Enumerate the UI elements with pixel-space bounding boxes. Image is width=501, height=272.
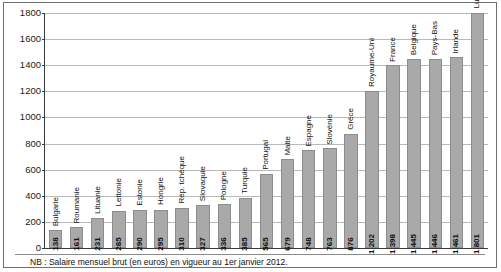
bar-value-label: 748: [301, 237, 309, 250]
bar[interactable]: 290: [133, 210, 147, 248]
bar[interactable]: 336: [218, 204, 232, 248]
bar-value-label: 1 446: [427, 234, 435, 254]
bar-value-label: 161: [69, 237, 77, 250]
bar[interactable]: 161: [70, 227, 84, 248]
bar-slot: 876Grèce: [344, 13, 358, 248]
bar-value-label: 336: [216, 237, 224, 250]
category-label: Slovaquie: [199, 166, 207, 201]
category-label: Pologne: [220, 171, 228, 200]
bar-slot: 138Bulgarie: [49, 13, 63, 248]
category-label: Irlande: [452, 29, 460, 53]
chart-note: NB : Salaire mensuel brut (en euros) en …: [30, 258, 288, 267]
y-axis-tick-label: 1000: [20, 113, 41, 123]
bar-slot: 161Roumanie: [70, 13, 84, 248]
bar[interactable]: 1 398: [386, 65, 400, 248]
category-label: Grèce: [347, 108, 355, 130]
y-axis-tick-label: 1600: [20, 34, 41, 44]
bar-value-label: 310: [174, 237, 182, 250]
note-divider: [15, 254, 485, 255]
bar[interactable]: 748: [302, 150, 316, 248]
bar-slot: 763Slovénie: [323, 13, 337, 248]
category-label: Malte: [284, 136, 292, 156]
bar-value-label: 290: [132, 237, 140, 250]
bar-value-label: 1 801: [469, 234, 477, 254]
bars-group: 138Bulgarie161Roumanie231Lituanie285Lett…: [45, 13, 488, 248]
bar[interactable]: 310: [175, 208, 189, 248]
bar-value-label: 763: [322, 237, 330, 250]
bar-value-label: 876: [343, 237, 351, 250]
bar-slot: 336Pologne: [218, 13, 232, 248]
plot-area: 020040060080010001200140016001800 138Bul…: [44, 13, 488, 248]
bar-value-label: 231: [90, 237, 98, 250]
bar-value-label: 679: [280, 237, 288, 250]
category-label: Espagne: [305, 115, 313, 147]
y-axis-tick-label: 400: [25, 191, 41, 201]
bar-slot: 285Lettonie: [112, 13, 126, 248]
bar[interactable]: 565: [260, 174, 274, 248]
bar[interactable]: 763: [323, 148, 337, 248]
category-label: Belgique: [410, 24, 418, 55]
category-label: Rép. tchèque: [178, 156, 186, 204]
bar-slot: 1 446Pays-Bas: [429, 13, 443, 248]
y-axis-tick-label: 1200: [20, 87, 41, 97]
bar[interactable]: 385: [239, 198, 253, 248]
chart-figure: 020040060080010001200140016001800 138Bul…: [0, 0, 501, 272]
bar[interactable]: 679: [281, 159, 295, 248]
bar[interactable]: 876: [344, 134, 358, 248]
bar-slot: 748Espagne: [302, 13, 316, 248]
category-label: Slovénie: [326, 114, 334, 145]
bar-slot: 1 801Luxembourg: [471, 13, 485, 248]
bar[interactable]: 1 445: [407, 59, 421, 248]
bar-value-label: 1 445: [406, 234, 414, 254]
bar-value-label: 385: [237, 237, 245, 250]
category-label: Royaume-Uni: [368, 38, 376, 87]
bar-slot: 679Malte: [281, 13, 295, 248]
category-label: Pays-Bas: [431, 21, 439, 55]
bar-slot: 327Slovaquie: [196, 13, 210, 248]
category-label: Estonie: [136, 179, 144, 206]
y-axis-tick-label: 600: [25, 165, 41, 175]
y-axis-tick-label: 1800: [20, 8, 41, 18]
bar[interactable]: 327: [196, 205, 210, 248]
bar-slot: 385Turquie: [239, 13, 253, 248]
bar-value-label: 138: [48, 237, 56, 250]
bar[interactable]: 1 801: [471, 13, 485, 248]
bar-value-label: 285: [111, 237, 119, 250]
bar-slot: 231Lituanie: [91, 13, 105, 248]
bar-slot: 290Estonie: [133, 13, 147, 248]
y-axis-tick-label: 0: [36, 243, 41, 253]
category-label: Luxembourg: [473, 0, 481, 9]
y-axis-tick-label: 800: [25, 139, 41, 149]
bar-slot: 310Rép. tchèque: [175, 13, 189, 248]
bar[interactable]: 1 446: [429, 59, 443, 248]
category-label: Turquie: [241, 167, 249, 194]
category-label: Bulgarie: [52, 197, 60, 226]
y-axis-tick-label: 1400: [20, 60, 41, 70]
category-label: Lettonie: [115, 178, 123, 206]
bar-value-label: 327: [195, 237, 203, 250]
bar[interactable]: 1 461: [450, 57, 464, 248]
chart-frame: 020040060080010001200140016001800 138Bul…: [3, 2, 497, 268]
y-axis-tick-label: 200: [25, 217, 41, 227]
bar-slot: 1 445Belgique: [407, 13, 421, 248]
bar-slot: 1 461Irlande: [450, 13, 464, 248]
bar[interactable]: 295: [154, 210, 168, 249]
bar[interactable]: 138: [49, 230, 63, 248]
bar-value-label: 295: [153, 237, 161, 250]
category-label: Hongrie: [157, 177, 165, 205]
bar-value-label: 1 202: [364, 234, 372, 254]
bar[interactable]: 1 202: [365, 91, 379, 248]
bar-slot: 295Hongrie: [154, 13, 168, 248]
bar[interactable]: 285: [112, 211, 126, 248]
category-label: France: [389, 37, 397, 62]
category-label: Portugal: [262, 140, 270, 170]
bar-slot: 565Portugal: [260, 13, 274, 248]
bar-value-label: 1 461: [448, 234, 456, 254]
category-label: Roumanie: [73, 187, 81, 223]
bar-slot: 1 398France: [386, 13, 400, 248]
bar-value-label: 565: [258, 237, 266, 250]
y-tick-mark-0: [42, 248, 45, 249]
category-label: Lituanie: [94, 186, 102, 214]
bar-slot: 1 202Royaume-Uni: [365, 13, 379, 248]
bar[interactable]: 231: [91, 218, 105, 248]
